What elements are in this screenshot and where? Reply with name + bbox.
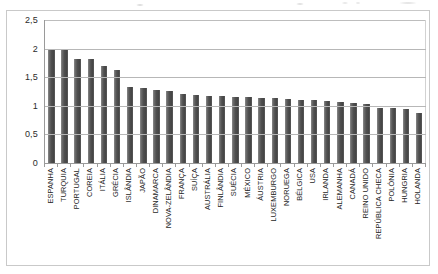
x-axis-label: POLÓNIA (388, 168, 396, 202)
x-axis-label-slot: DINAMARCA (149, 168, 162, 260)
bar-slot (308, 20, 321, 163)
x-axis-label-slot: BÉLGICA (294, 168, 307, 260)
x-axis-label-slot: JAPÃO (136, 168, 149, 260)
bar (390, 108, 396, 163)
y-axis-tick-label: 2 (12, 44, 38, 54)
x-axis-label-slot: NOVA-ZELÂNDIA (162, 168, 175, 260)
x-axis-tick (307, 163, 308, 167)
bar-slot (98, 20, 111, 163)
x-axis-label-slot: LUXEMBURGO (267, 168, 280, 260)
y-axis-labels: 00,511,522,5 (12, 0, 38, 274)
x-axis-label: BÉLGICA (296, 168, 304, 201)
bar-slot (242, 20, 255, 163)
x-axis-label-slot: HOLANDA (412, 168, 425, 260)
x-axis-tick (386, 163, 387, 167)
x-axis-tick (254, 163, 255, 167)
bar-slot (176, 20, 189, 163)
x-axis-label: FINLÂNDIA (217, 168, 225, 208)
x-axis-tick (189, 163, 190, 167)
gridline (45, 49, 426, 50)
x-axis-tick (97, 163, 98, 167)
bar (101, 66, 107, 163)
x-axis-tick (70, 163, 71, 167)
bar-slot (124, 20, 137, 163)
bar (245, 97, 251, 163)
x-axis-label-slot: SUÉCIA (228, 168, 241, 260)
x-axis-tick (294, 163, 295, 167)
x-axis-label-slot: ÁUSTRIA (254, 168, 267, 260)
bar-slot (347, 20, 360, 163)
x-axis-label-slot: ITÁLIA (97, 168, 110, 260)
bar-slot (190, 20, 203, 163)
x-axis-label-slot: GRÉCIA (110, 168, 123, 260)
bar (153, 90, 159, 163)
x-axis-tick (162, 163, 163, 167)
x-axis-tick (320, 163, 321, 167)
x-axis-label: FRANÇA (178, 168, 186, 199)
y-axis-tick-label: 0,5 (12, 129, 38, 139)
x-axis-label: ÁUSTRIA (257, 168, 265, 201)
bar (298, 100, 304, 163)
bar-slot (373, 20, 386, 163)
bar-chart: 00,511,522,5 ESPANHATURQUIAPORTUGALCOREI… (0, 0, 438, 274)
bar-slot (360, 20, 373, 163)
x-axis-tick (399, 163, 400, 167)
x-axis-label: MÉXICO (244, 168, 252, 198)
bar (363, 104, 369, 163)
bar (337, 102, 343, 163)
bar (166, 91, 172, 163)
x-axis-label: JAPÃO (139, 168, 147, 193)
x-axis-tick (123, 163, 124, 167)
x-axis-label: HOLANDA (414, 168, 422, 204)
bar-slot (281, 20, 294, 163)
x-axis-label: CANADÁ (349, 168, 357, 199)
x-axis-label-slot: REPÚBLICA CHECA (372, 168, 385, 260)
x-axis-label-slot: MÉXICO (241, 168, 254, 260)
bar-slot (387, 20, 400, 163)
bar-slot (229, 20, 242, 163)
bar (311, 100, 317, 163)
x-axis-label-slot: NORUEGA (280, 168, 293, 260)
x-axis-tick (425, 163, 426, 167)
bar (74, 59, 80, 163)
x-axis-label: ALEMANHA (336, 168, 344, 209)
y-axis-tick-label: 0 (12, 158, 38, 168)
bar (114, 70, 120, 163)
x-axis-label: NOVA-ZELÂNDIA (165, 168, 173, 228)
x-axis-labels: ESPANHATURQUIAPORTUGALCOREIAITÁLIAGRÉCIA… (44, 168, 425, 260)
x-axis-tick (359, 163, 360, 167)
x-axis-label: COREIA (86, 168, 94, 197)
x-axis-label: GRÉCIA (112, 168, 120, 197)
gridline (45, 134, 426, 135)
y-axis-tick-label: 2,5 (12, 15, 38, 25)
bar-slot (413, 20, 426, 163)
bar-slot (334, 20, 347, 163)
x-axis-label-slot: IRLANDA (320, 168, 333, 260)
x-axis-label-slot: USA (307, 168, 320, 260)
x-axis-tick (83, 163, 84, 167)
x-axis-label: NORUEGA (283, 168, 291, 206)
x-axis-label: HUNGRIA (401, 168, 409, 203)
x-axis-label: ESPANHA (47, 168, 55, 203)
bar-slot (137, 20, 150, 163)
bar (350, 103, 356, 163)
x-axis-label-slot: REINO UNIDO (359, 168, 372, 260)
gridline (45, 106, 426, 107)
bar-slot (71, 20, 84, 163)
x-axis-tick (136, 163, 137, 167)
bar-slot (150, 20, 163, 163)
bar (416, 113, 422, 163)
bar-slot (163, 20, 176, 163)
x-axis-tick (149, 163, 150, 167)
x-axis-label: ISLÂNDIA (125, 168, 133, 202)
x-axis-tick (280, 163, 281, 167)
bar-series (45, 20, 426, 163)
y-axis-tick-label: 1,5 (12, 72, 38, 82)
x-axis-label: AUSTRÁLIA (204, 168, 212, 210)
x-axis-label-slot: SUÍÇA (189, 168, 202, 260)
x-axis-tick (228, 163, 229, 167)
x-axis-label: SUÍÇA (191, 168, 199, 191)
x-axis-label: IRLANDA (322, 168, 330, 201)
bar-slot (84, 20, 97, 163)
x-axis-ticks (44, 163, 425, 167)
